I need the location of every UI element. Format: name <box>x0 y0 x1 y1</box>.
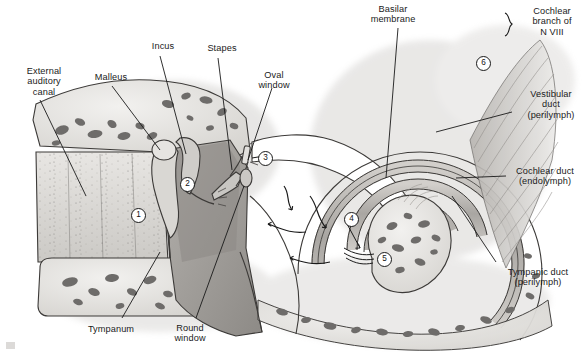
label-tympanum: Tympanum <box>76 324 146 334</box>
flow-arrow-1 <box>284 186 292 210</box>
ear-diagram-artwork <box>0 0 586 352</box>
label-vestibular-duct: Vestibular duct (perilymph) <box>516 89 586 120</box>
round-window-shape <box>240 169 252 187</box>
label-incus: Incus <box>140 41 186 51</box>
flow-arrow-3 <box>268 224 306 232</box>
label-cochlear-duct: Cochlear duct (endolymph) <box>504 166 586 187</box>
label-tympanic-duct: Tympanic duct (perilymph) <box>494 267 582 288</box>
label-external-auditory-canal: External auditory canal <box>8 66 80 97</box>
page-artifact <box>6 342 15 349</box>
label-stapes: Stapes <box>197 43 247 53</box>
marker-3: 3 <box>258 151 273 166</box>
marker-2: 2 <box>180 177 195 192</box>
label-oval-window: Oval window <box>248 70 300 91</box>
marker-6: 6 <box>476 56 491 71</box>
marker-4: 4 <box>344 212 359 227</box>
label-cochlear-branch-n-viii: Cochlear branch of N VIII <box>519 6 585 37</box>
label-malleus: Malleus <box>82 72 140 82</box>
marker-5: 5 <box>377 252 392 267</box>
marker-1: 1 <box>131 208 146 223</box>
label-basilar-membrane: Basilar membrane <box>357 4 429 25</box>
external-auditory-canal-shape <box>36 152 168 262</box>
label-round-window: Round window <box>164 323 216 344</box>
ear-anatomy-figure: External auditory canal Malleus Incus St… <box>0 0 586 352</box>
